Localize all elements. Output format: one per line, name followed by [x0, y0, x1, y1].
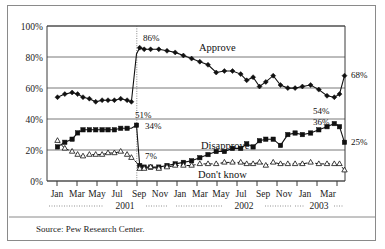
- y-tick-40: 40%: [26, 115, 44, 125]
- year-group-2002: 2002: [176, 201, 291, 211]
- year-label-2003: 2003: [310, 201, 329, 211]
- x-axis-tickmarks: [57, 181, 337, 186]
- series-label-dont-know: Don't know: [198, 169, 247, 180]
- chart-plot-container: 100% 80% 60% 40% 20% 0%: [8, 6, 377, 242]
- x-tick-nov-2001: Nov: [152, 189, 169, 199]
- plot-background: [47, 26, 345, 181]
- y-tick-60: 60%: [26, 84, 44, 94]
- annotation-7: 7%: [145, 151, 158, 161]
- year-group-2001: 2001: [49, 201, 168, 211]
- chart-figure-frame: 100% 80% 60% 40% 20% 0%: [7, 5, 376, 241]
- x-tick-sep-2001: Sep: [132, 189, 147, 199]
- annotation-34: 34%: [145, 121, 162, 131]
- y-tick-0: 0%: [30, 177, 43, 187]
- x-tick-mar-2003: Mar: [320, 189, 337, 199]
- x-tick-mar-2002: Mar: [192, 189, 209, 199]
- x-tick-jul-2001: Jul: [111, 189, 122, 199]
- approval-trend-line-chart: 100% 80% 60% 40% 20% 0%: [8, 6, 377, 242]
- annotation-51: 51%: [135, 110, 152, 120]
- x-tick-sep-2002: Sep: [256, 189, 271, 199]
- annotation-54: 54%: [313, 106, 330, 116]
- annotation-68: 68%: [351, 70, 368, 80]
- x-tick-jan-2002: Jan: [174, 189, 187, 199]
- x-tick-jul-2002: Jul: [235, 189, 246, 199]
- y-axis-ticks: 100% 80% 60% 40% 20% 0%: [21, 22, 43, 187]
- x-axis-labels: Jan Mar May Jul Sep Nov Jan Mar May Jul …: [51, 189, 337, 199]
- x-tick-jan-2001: Jan: [51, 189, 64, 199]
- x-tick-may-2001: May: [88, 189, 106, 199]
- series-label-disapprove: Disapprove: [201, 140, 250, 151]
- annotation-86: 86%: [143, 33, 160, 43]
- year-label-2001: 2001: [116, 201, 135, 211]
- source-note: Source: Pew Research Center.: [36, 224, 144, 234]
- annotation-25: 25%: [351, 137, 368, 147]
- x-tick-mar-2001: Mar: [69, 189, 86, 199]
- annotation-36: 36%: [313, 117, 330, 127]
- year-label-2002: 2002: [235, 201, 254, 211]
- x-tick-may-2002: May: [212, 189, 230, 199]
- y-tick-100: 100%: [21, 22, 43, 32]
- x-tick-jan-2003: Jan: [299, 189, 312, 199]
- series-label-approve: Approve: [199, 42, 236, 53]
- x-tick-nov-2002: Nov: [276, 189, 293, 199]
- y-tick-80: 80%: [26, 53, 44, 63]
- year-group-2003: 2003: [295, 201, 344, 211]
- y-tick-20: 20%: [26, 146, 44, 156]
